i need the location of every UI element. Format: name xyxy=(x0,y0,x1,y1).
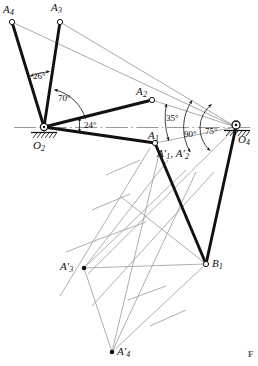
link-O4-B1 xyxy=(206,127,236,264)
bisector-tick-5 xyxy=(66,238,102,252)
joint-B1 xyxy=(203,261,208,266)
link-O2-A2 xyxy=(44,100,152,127)
pivot-center-O2 xyxy=(43,126,45,128)
label-A3-prime: A′3 xyxy=(60,261,73,274)
label-O2: O2 xyxy=(33,140,45,153)
point-A3-prime xyxy=(82,266,87,271)
point-A4-prime xyxy=(110,350,115,355)
label-A1: A1 xyxy=(148,130,159,143)
construction-line-A3p-3 xyxy=(84,264,206,268)
construction-chord-1 xyxy=(60,148,150,296)
linkage-diagram-svg xyxy=(0,0,258,366)
label-A1-A2-prime: A′1, A′2 xyxy=(157,148,189,161)
angle-label-26: 26° xyxy=(33,72,46,81)
construction-line-A4p-1 xyxy=(112,172,196,352)
angle-label-90: 90° xyxy=(184,130,197,139)
pivot-center-O4 xyxy=(235,124,238,127)
bisector-tick-1 xyxy=(92,194,130,210)
mechanism-links-group xyxy=(12,22,236,264)
angle-label-24: 24° xyxy=(84,121,97,130)
bisector-tick-6 xyxy=(150,310,186,326)
link-A1-B1 xyxy=(155,143,206,264)
construction-line-A3p-1 xyxy=(84,160,168,268)
figure-corner-mark: F xyxy=(248,350,254,359)
construction-line-A4p-to-B1 xyxy=(112,264,206,352)
joint-markers-group xyxy=(9,19,208,354)
label-O4: O4 xyxy=(238,134,250,147)
label-A3: A3 xyxy=(51,2,62,15)
construction-ray-A3-O4 xyxy=(60,22,236,127)
label-A2: A2 xyxy=(136,86,147,99)
joint-A2 xyxy=(149,97,154,102)
bisector-tick-4 xyxy=(128,286,166,300)
link-O2-A1 xyxy=(44,127,155,143)
angle-label-70: 70° xyxy=(58,94,71,103)
label-A4: A4 xyxy=(3,4,14,17)
construction-line-A4p-2 xyxy=(112,150,160,352)
label-A4-prime: A′4 xyxy=(117,346,130,359)
construction-network-group xyxy=(60,127,236,352)
construction-line-A3p-to-A4p xyxy=(84,268,112,352)
label-B1: B1 xyxy=(212,258,223,271)
angle-arc-90 xyxy=(184,101,192,152)
joint-A4 xyxy=(9,19,14,24)
ground-hatch-O2 xyxy=(33,133,57,138)
angle-label-35: 35° xyxy=(166,114,179,123)
joint-A3 xyxy=(57,19,62,24)
construction-ray-A2-O4 xyxy=(152,100,236,127)
figure-canvas: A4 A3 A2 A1 O2 O4 B1 A′3 A′4 A′1, A′2 26… xyxy=(0,0,258,366)
angle-label-75: 75° xyxy=(205,127,218,136)
